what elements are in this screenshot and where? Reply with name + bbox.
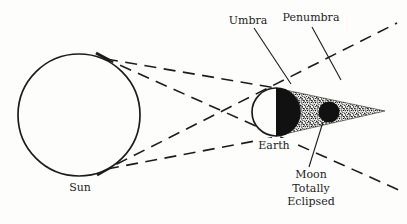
eclipse-diagram-canvas: Sun Earth Umbra Penumbra Moon Totally Ec… (0, 0, 407, 224)
moon-label-line-3: Eclipsed (287, 195, 334, 208)
umbra-label: Umbra (229, 14, 268, 27)
lunar-eclipse-diagram: Sun Earth Umbra Penumbra Moon Totally Ec… (0, 0, 407, 224)
moon-label-line-2: Totally (292, 182, 330, 195)
moon-circle (319, 102, 340, 123)
sun-label: Sun (69, 181, 91, 194)
inner-tangent-ray-bottom (107, 23, 397, 169)
penumbra-pointer-line (312, 27, 341, 80)
inner-tangent-ray-top (106, 59, 401, 191)
penumbra-label: Penumbra (283, 11, 340, 24)
umbra-pointer-line (254, 28, 291, 84)
earth-label: Earth (258, 139, 289, 152)
moon-pointer-line (309, 122, 323, 167)
moon-label-line-1: Moon (295, 168, 327, 181)
sun-circle (18, 54, 140, 176)
